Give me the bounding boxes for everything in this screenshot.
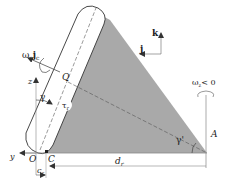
label-omega-c-jc: ωcjc: [22, 50, 40, 61]
omega-c-arrow: [28, 58, 60, 72]
contact-geometry-diagram: ωcjc Q z γ τr y O C cr dr γ' A k j ωz< 0: [0, 0, 234, 180]
label-a: A: [210, 129, 218, 139]
label-dr: dr: [115, 156, 125, 167]
label-q: Q: [62, 72, 70, 82]
label-gamma-prime: γ': [176, 135, 184, 145]
label-k: k: [152, 28, 159, 38]
label-o: O: [29, 154, 37, 164]
label-c: C: [48, 154, 55, 164]
point-c-marker: [45, 150, 48, 153]
label-y: y: [9, 152, 15, 161]
label-z: z: [27, 77, 33, 86]
label-j: j: [139, 44, 143, 54]
label-cr: cr: [37, 166, 44, 176]
label-omega-z-condition: ωz< 0: [192, 78, 216, 88]
label-gamma: γ: [40, 92, 45, 102]
